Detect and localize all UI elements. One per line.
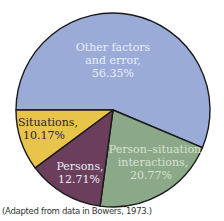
- pie-chart: Other factors and error, 56.35% Person–s…: [0, 0, 224, 210]
- label-persons: Persons, 12.71%: [56, 160, 103, 186]
- label-value: 20.77%: [130, 169, 172, 182]
- label-value: 10.17%: [23, 129, 65, 142]
- label-line: Other factors: [76, 41, 151, 54]
- label-line: interactions,: [118, 156, 188, 169]
- label-line: and error,: [85, 54, 140, 67]
- label-value: 12.71%: [58, 173, 100, 186]
- label-value: 56.35%: [92, 67, 134, 80]
- label-line: Situations,: [18, 116, 78, 129]
- label-line: Person–situation: [109, 143, 201, 156]
- label-line: Persons,: [56, 160, 103, 173]
- source-caption: (Adapted from data in Bowers, 1973.): [2, 206, 152, 216]
